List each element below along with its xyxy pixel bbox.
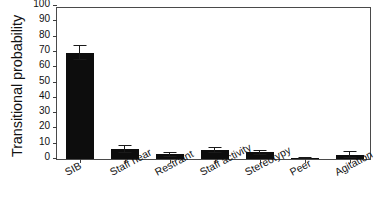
bar-slot [237, 8, 282, 159]
y-tick-label: 100 [33, 0, 50, 9]
bar-series-container [57, 8, 370, 159]
y-tick-label: 40 [39, 91, 50, 101]
bar-slot [102, 8, 147, 159]
error-bar-cap-top [208, 147, 221, 148]
error-bar-stem [79, 45, 80, 60]
error-bar-cap-top [163, 152, 176, 153]
y-tick-label: 80 [39, 30, 50, 40]
y-tick-label: 10 [39, 137, 50, 147]
x-axis-category-label: Peer [288, 158, 313, 178]
y-tick-label: 50 [39, 76, 50, 86]
y-tick-mark [53, 5, 57, 6]
bar-slot [282, 8, 327, 159]
error-bar-cap-top [253, 150, 266, 151]
y-tick-mark [53, 20, 57, 21]
bar-slot [192, 8, 237, 159]
error-bar-cap-top [118, 145, 131, 146]
error-bar-cap-bottom [118, 152, 131, 153]
y-tick-mark [53, 51, 57, 52]
error-bar-cap-top [343, 151, 356, 152]
y-tick-mark [53, 143, 57, 144]
plot-area: 0102030405060708090100 [56, 7, 371, 160]
error-bar-cap-bottom [208, 152, 221, 153]
y-tick-label: 60 [39, 60, 50, 70]
y-tick-mark [53, 36, 57, 37]
error-bar [208, 147, 221, 153]
bar [66, 53, 94, 159]
y-axis-title: Transitional probability [9, 1, 25, 171]
y-tick-label: 30 [39, 106, 50, 116]
bar-chart-figure: Transitional probability 010203040506070… [0, 0, 382, 215]
y-tick-mark [53, 127, 57, 128]
bar-slot [147, 8, 192, 159]
error-bar [118, 145, 131, 153]
y-tick-mark [53, 112, 57, 113]
error-bar-cap-top [73, 45, 86, 46]
y-tick-label: 90 [39, 14, 50, 24]
y-tick-mark [53, 97, 57, 98]
y-tick-mark [53, 66, 57, 67]
y-tick-label: 20 [39, 121, 50, 131]
y-tick-label: 0 [44, 152, 50, 162]
y-tick-mark [53, 158, 57, 159]
bar-slot [327, 8, 372, 159]
x-axis-labels: SIBStaff nearRestraintStaff activitySter… [56, 162, 371, 212]
y-tick-mark [53, 82, 57, 83]
error-bar-cap-bottom [73, 59, 86, 60]
error-bar [73, 45, 86, 60]
y-tick-label: 70 [39, 45, 50, 55]
bar-slot [57, 8, 102, 159]
x-axis-category-label: SIB [63, 160, 83, 178]
